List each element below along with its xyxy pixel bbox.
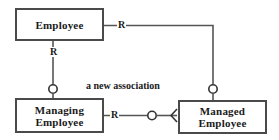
- arc-marker-managed-left: [171, 109, 177, 122]
- edge-label-employee-managed: R: [117, 20, 126, 30]
- circle-marker-managing-managed-mid: [148, 111, 156, 119]
- edge-label-managing-managed: R: [110, 110, 119, 120]
- association-caption: a new association: [86, 80, 160, 91]
- entity-label-managing-employee: Managing Employee: [35, 104, 84, 128]
- entity-label-managed-employee: Managed Employee: [198, 105, 246, 129]
- entity-box-managing-employee[interactable]: Managing Employee: [15, 98, 104, 133]
- entity-label-employee: Employee: [35, 19, 83, 31]
- circle-marker-managing-top: [49, 85, 57, 93]
- edge-employee-managed-line: [104, 26, 213, 86]
- circle-marker-managed-top: [209, 85, 217, 93]
- er-diagram-canvas: Employee Managing Employee Managed Emplo…: [0, 0, 279, 140]
- edge-label-employee-managing: R: [49, 47, 58, 57]
- entity-box-employee[interactable]: Employee: [15, 8, 104, 41]
- entity-box-managed-employee[interactable]: Managed Employee: [178, 100, 267, 134]
